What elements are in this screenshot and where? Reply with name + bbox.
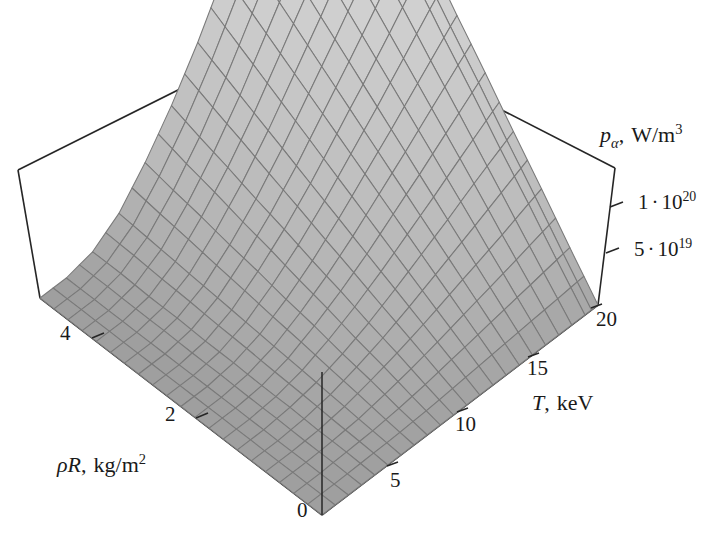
tick-label-p-1e20: 1·1020 — [638, 190, 696, 213]
axis-title-T-comma: , — [544, 390, 550, 415]
tick-label-p-1e20-exponent: 20 — [682, 189, 696, 204]
tick-label-p-1e20-mantissa: 1 — [638, 190, 649, 214]
tick-label-T-20: 20 — [596, 309, 617, 330]
axis-title-p-exponent: 3 — [675, 121, 682, 137]
tick-label-p-1e20-base: 10 — [661, 190, 682, 214]
figure-container: 4 2 0 ρR,kg/m2 5 10 15 20 T,keV 1·1020 5… — [0, 0, 726, 549]
tick-p-5e19 — [606, 248, 619, 253]
surface-mesh — [40, 0, 598, 515]
axis-title-rhoR-exponent: 2 — [139, 451, 146, 467]
axis-title-p-comma: , — [619, 122, 625, 147]
axis-title-rhoR-symbol: ρR — [57, 452, 81, 477]
multiply-dot-icon: · — [645, 237, 658, 261]
axis-title-p-subscript: α — [611, 135, 619, 151]
tick-label-T-5: 5 — [390, 470, 401, 491]
tick-label-rhoR-0: 0 — [297, 500, 308, 521]
axis-title-p-units: W/m — [631, 122, 675, 147]
tick-label-p-5e19: 5·1019 — [634, 237, 692, 260]
axis-title-rhoR: ρR,kg/m2 — [57, 452, 146, 476]
tick-label-p-5e19-base: 10 — [657, 237, 678, 261]
axis-title-p-alpha: pα,W/m3 — [600, 122, 682, 150]
tick-p-1e20 — [610, 202, 623, 207]
axis-title-T-units: keV — [557, 390, 594, 415]
tick-label-p-5e19-mantissa: 5 — [634, 237, 645, 261]
axis-title-T: T,keV — [532, 392, 593, 414]
tick-label-T-10: 10 — [455, 414, 476, 435]
tick-label-p-5e19-exponent: 19 — [678, 236, 692, 251]
tick-label-rhoR-4: 4 — [60, 323, 71, 344]
multiply-dot-icon: · — [649, 190, 662, 214]
axis-title-p-symbol: p — [600, 122, 611, 147]
tick-label-rhoR-2: 2 — [165, 404, 176, 425]
axis-title-rhoR-units: kg/m — [94, 452, 139, 477]
axis-title-T-symbol: T — [532, 390, 544, 415]
axis-title-rhoR-comma: , — [81, 452, 87, 477]
tick-label-T-15: 15 — [527, 358, 548, 379]
